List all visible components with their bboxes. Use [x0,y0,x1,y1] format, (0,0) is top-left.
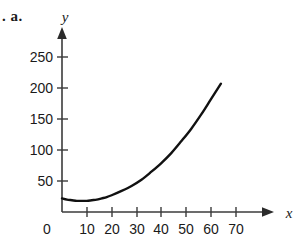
x-tick-label-10: 10 [79,221,95,237]
y-tick-label-100: 100 [30,142,54,158]
figure-container: . a. 250 200 150 100 50 [0,0,300,241]
data-curve [62,84,221,201]
x-axis-label: x [285,205,293,221]
x-tick-label-50: 50 [178,221,194,237]
x-tick-label-0: 0 [43,221,51,237]
y-tick-label-150: 150 [30,111,54,127]
x-tick-label-30: 30 [129,221,145,237]
x-tick-label-60: 60 [203,221,219,237]
y-axis-arrow-icon [57,27,67,39]
y-tick-label-200: 200 [30,80,54,96]
x-axis-arrow-icon [262,207,274,217]
coordinate-plot: 250 200 150 100 50 0 10 20 30 40 50 60 7… [0,0,300,241]
x-tick-label-70: 70 [228,221,244,237]
x-tick-label-20: 20 [104,221,120,237]
x-tick-label-40: 40 [153,221,169,237]
y-tick-label-250: 250 [30,49,54,65]
y-axis-label: y [60,9,69,25]
y-tick-label-50: 50 [37,173,53,189]
